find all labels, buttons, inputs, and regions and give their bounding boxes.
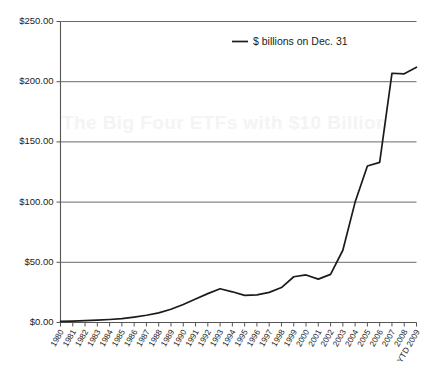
legend-label: $ billions on Dec. 31 bbox=[253, 35, 348, 47]
y-axis-ticks bbox=[57, 22, 61, 323]
y-axis-tick-label: $0.00 bbox=[30, 316, 54, 327]
chart-legend: $ billions on Dec. 31 bbox=[232, 35, 348, 47]
data-series-line bbox=[61, 67, 417, 321]
line-chart: $0.00$50.00$100.00$150.00$200.00$250.00 … bbox=[0, 0, 430, 374]
y-axis-tick-label: $150.00 bbox=[19, 135, 53, 146]
y-axis-tick-label: $50.00 bbox=[24, 256, 53, 267]
y-axis-tick-label: $200.00 bbox=[19, 75, 53, 86]
gridlines-group bbox=[61, 22, 417, 263]
x-axis-ticks bbox=[61, 323, 417, 327]
y-axis-tick-label: $250.00 bbox=[19, 15, 53, 26]
x-axis-labels: 1980198119821983198419851986198719881989… bbox=[49, 328, 422, 365]
chart-container: The Big Four ETFs with $10 Billion $0.00… bbox=[0, 0, 430, 374]
y-axis-tick-label: $100.00 bbox=[19, 196, 53, 207]
y-axis-labels: $0.00$50.00$100.00$150.00$200.00$250.00 bbox=[19, 15, 53, 327]
